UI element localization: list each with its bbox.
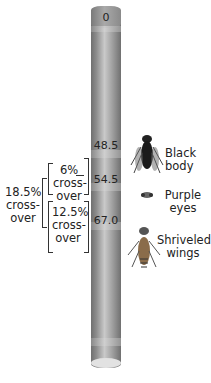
locus-black-body-position: 48.5 [91,139,121,152]
crossover-outer-label: 18.5% cross- over [5,186,41,225]
trait-purple-eyes: Purple eyes [163,189,203,215]
crossover-upper-label: 6% cross- over [53,164,85,203]
bracket-outer [42,178,47,228]
chromosome-bottom-cap [91,358,121,368]
locus-shriveled-wings-position: 67.0 [91,214,121,227]
trait-shriveled-wings: Shriveled wings [157,234,209,260]
locus-purple-eyes-position: 54.5 [91,173,121,186]
black-body-fly-icon [130,125,164,180]
locus-0-label: 0 [91,11,121,24]
chromosome-band [91,26,121,32]
crossover-lower-label: 12.5% cross- over [52,206,84,245]
trait-black-body: Black body [165,147,196,173]
chromosome-band [91,338,121,346]
purple-eyes-fly-head-icon [140,191,154,199]
